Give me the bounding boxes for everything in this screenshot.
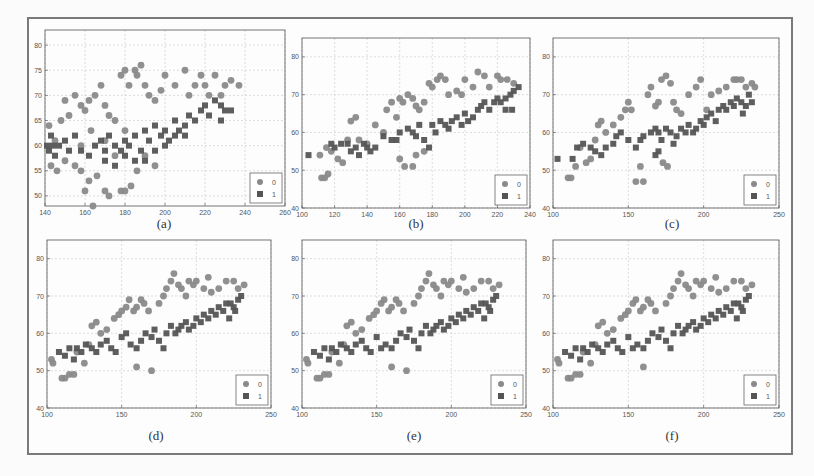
svg-text:40: 40 — [36, 405, 44, 412]
series-1 — [56, 293, 244, 362]
svg-text:100: 100 — [547, 211, 559, 218]
svg-text:50: 50 — [34, 192, 42, 199]
caption-e: (e) — [394, 428, 434, 444]
svg-text:70: 70 — [542, 293, 550, 300]
svg-text:250: 250 — [773, 411, 785, 418]
svg-text:0: 0 — [766, 381, 770, 388]
svg-text:80: 80 — [34, 42, 42, 49]
svg-text:200: 200 — [190, 411, 202, 418]
legend: 01 — [495, 175, 527, 205]
svg-text:250: 250 — [520, 411, 532, 418]
caption-f: (f) — [652, 428, 692, 444]
series-1 — [555, 92, 755, 162]
scatter-plot-c: 100150200250405060708001 — [553, 38, 779, 208]
svg-text:50: 50 — [291, 167, 299, 174]
svg-text:260: 260 — [279, 209, 291, 216]
svg-text:50: 50 — [36, 367, 44, 374]
svg-text:1: 1 — [517, 193, 521, 200]
panel-b: 100120140160180200220240405060708001 — [302, 38, 530, 208]
svg-text:220: 220 — [199, 209, 211, 216]
legend: 01 — [491, 375, 523, 405]
svg-text:70: 70 — [291, 293, 299, 300]
svg-text:80: 80 — [36, 255, 44, 262]
series-1 — [44, 97, 234, 168]
svg-text:200: 200 — [698, 411, 710, 418]
scatter-plot-a: 1401601802002202402605055606570758001 — [45, 30, 285, 206]
svg-text:1: 1 — [272, 191, 276, 198]
panel-f: 100150200250405060708001 — [553, 240, 779, 408]
scatter-plot-f: 100150200250405060708001 — [553, 240, 779, 408]
series-1 — [562, 293, 752, 362]
svg-text:1: 1 — [513, 393, 517, 400]
svg-text:100: 100 — [296, 211, 308, 218]
svg-text:200: 200 — [698, 211, 710, 218]
caption-b: (b) — [396, 216, 436, 232]
legend: 01 — [236, 375, 268, 405]
caption-c: (c) — [652, 216, 692, 232]
legend: 01 — [744, 375, 776, 405]
svg-text:200: 200 — [159, 209, 171, 216]
svg-text:160: 160 — [79, 209, 91, 216]
svg-text:1: 1 — [766, 393, 770, 400]
panel-e: 100150200250405060708001 — [302, 240, 526, 408]
svg-text:80: 80 — [542, 255, 550, 262]
svg-text:40: 40 — [542, 205, 550, 212]
svg-text:40: 40 — [291, 205, 299, 212]
svg-text:100: 100 — [41, 411, 53, 418]
grid-lines — [45, 30, 285, 206]
caption-a: (a) — [144, 216, 184, 232]
legend: 01 — [744, 175, 776, 205]
scatter-plot-d: 100150200250405060708001 — [47, 240, 271, 408]
svg-text:150: 150 — [622, 411, 634, 418]
svg-text:100: 100 — [547, 411, 559, 418]
svg-text:0: 0 — [766, 181, 770, 188]
svg-text:70: 70 — [36, 293, 44, 300]
svg-text:60: 60 — [291, 129, 299, 136]
svg-text:0: 0 — [513, 381, 517, 388]
svg-text:250: 250 — [265, 411, 277, 418]
panel-d: 100150200250405060708001 — [47, 240, 271, 408]
svg-text:55: 55 — [34, 167, 42, 174]
svg-text:240: 240 — [239, 209, 251, 216]
svg-text:0: 0 — [258, 381, 262, 388]
svg-text:50: 50 — [542, 167, 550, 174]
svg-text:200: 200 — [445, 411, 457, 418]
svg-text:140: 140 — [39, 209, 51, 216]
series-0 — [565, 72, 759, 185]
svg-text:80: 80 — [291, 255, 299, 262]
svg-text:120: 120 — [329, 211, 341, 218]
svg-text:1: 1 — [766, 193, 770, 200]
svg-text:50: 50 — [291, 367, 299, 374]
svg-text:180: 180 — [119, 209, 131, 216]
svg-text:100: 100 — [296, 411, 308, 418]
svg-text:60: 60 — [36, 330, 44, 337]
series-1 — [311, 293, 499, 362]
svg-text:150: 150 — [371, 411, 383, 418]
svg-text:80: 80 — [542, 53, 550, 60]
scatter-plot-e: 100150200250405060708001 — [302, 240, 526, 408]
svg-text:200: 200 — [459, 211, 471, 218]
svg-text:70: 70 — [34, 92, 42, 99]
svg-text:75: 75 — [34, 67, 42, 74]
svg-text:60: 60 — [34, 142, 42, 149]
series-0 — [303, 270, 502, 381]
scatter-plot-b: 100120140160180200220240405060708001 — [302, 38, 530, 208]
svg-text:240: 240 — [524, 211, 536, 218]
svg-text:50: 50 — [542, 367, 550, 374]
svg-text:140: 140 — [361, 211, 373, 218]
svg-text:0: 0 — [517, 181, 521, 188]
svg-text:0: 0 — [272, 179, 276, 186]
svg-text:60: 60 — [542, 330, 550, 337]
panel-a: 1401601802002202402605055606570758001 — [45, 30, 285, 206]
svg-text:40: 40 — [291, 405, 299, 412]
svg-text:70: 70 — [542, 91, 550, 98]
svg-text:250: 250 — [773, 211, 785, 218]
svg-text:80: 80 — [291, 53, 299, 60]
svg-text:150: 150 — [622, 211, 634, 218]
svg-text:65: 65 — [34, 117, 42, 124]
series-0 — [554, 270, 755, 381]
svg-text:60: 60 — [291, 330, 299, 337]
svg-text:150: 150 — [116, 411, 128, 418]
legend: 01 — [250, 173, 282, 203]
svg-text:70: 70 — [291, 91, 299, 98]
